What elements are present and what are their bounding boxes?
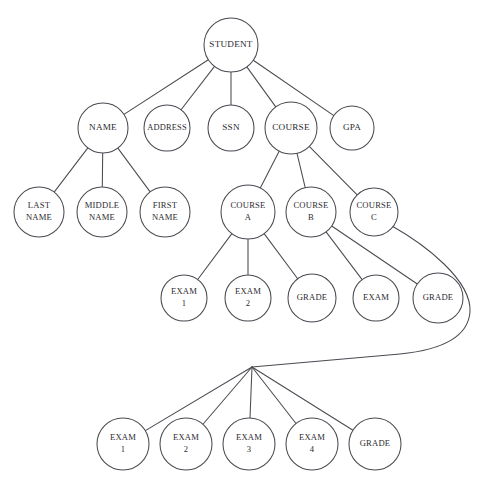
node-label-b-grade: GRADE	[423, 292, 454, 302]
tree-node-first-name[interactable]: FIRSTNAME	[140, 187, 190, 237]
tree-node-gpa[interactable]: GPA	[330, 106, 374, 150]
tree-node-name[interactable]: NAME	[78, 103, 128, 153]
tree-node-a-grade[interactable]: GRADE	[288, 274, 336, 322]
tree-node-a-exam-1[interactable]: EXAM1	[161, 275, 207, 321]
node-label-gpa: GPA	[343, 122, 361, 132]
node-label-b-exam: EXAM	[363, 292, 389, 302]
tree-node-course-c[interactable]: COURSEC	[350, 188, 398, 236]
tree-edge-course-a-grade	[264, 234, 298, 279]
tree-node-middle-name[interactable]: MIDDLENAME	[77, 187, 127, 237]
tree-diagram-canvas: STUDENTNAMEADDRESSSSNCOURSEGPALASTNAMEMI…	[0, 0, 486, 484]
tree-node-last-name[interactable]: LASTNAME	[14, 187, 64, 237]
node-label-c-grade: GRADE	[360, 438, 391, 448]
node-label-course: COURSE	[272, 122, 310, 132]
tree-edge-fan-c-exam-2	[203, 367, 252, 424]
tree-edge-name-last-name	[54, 148, 88, 192]
tree-node-course-b[interactable]: COURSEB	[286, 187, 336, 237]
node-label-first-name: FIRSTNAME	[152, 200, 178, 221]
tree-edge-course-a-exam-1	[198, 234, 232, 280]
tree-node-student[interactable]: STUDENT	[204, 18, 258, 72]
node-label-student: STUDENT	[209, 39, 252, 49]
tree-node-course-a[interactable]: COURSEA	[221, 185, 275, 239]
node-label-middle-name: MIDDLENAME	[85, 200, 120, 221]
tree-node-course[interactable]: COURSE	[265, 102, 317, 154]
tree-node-c-exam-4[interactable]: EXAM4	[286, 418, 338, 470]
tree-node-address[interactable]: ADDRESS	[144, 105, 190, 151]
tree-node-b-exam[interactable]: EXAM	[353, 275, 399, 321]
tree-node-c-exam-3[interactable]: EXAM3	[223, 418, 275, 470]
nodes-layer: STUDENTNAMEADDRESSSSNCOURSEGPALASTNAMEMI…	[14, 18, 463, 470]
tree-edge-name-first-name	[118, 148, 150, 192]
tree-node-a-exam-2[interactable]: EXAM2	[225, 275, 271, 321]
tree-diagram: STUDENTNAMEADDRESSSSNCOURSEGPALASTNAMEMI…	[0, 0, 486, 484]
tree-node-ssn[interactable]: SSN	[208, 105, 254, 151]
node-label-ssn: SSN	[222, 122, 240, 132]
tree-edge-student-address	[181, 66, 214, 109]
tree-edge-course-b-exam	[326, 232, 362, 280]
node-label-a-grade: GRADE	[297, 292, 328, 302]
node-label-address: ADDRESS	[147, 123, 187, 132]
tree-edge-fan-c-exam-4	[252, 367, 296, 423]
tree-node-b-grade[interactable]: GRADE	[413, 273, 463, 323]
node-label-name: NAME	[89, 122, 117, 132]
tree-edge-course-course-b	[297, 153, 305, 187]
tree-node-c-grade[interactable]: GRADE	[349, 418, 401, 470]
tree-node-c-exam-1[interactable]: EXAM1	[97, 418, 149, 470]
tree-edge-fan-c-exam-3	[250, 367, 252, 418]
tree-node-c-exam-2[interactable]: EXAM2	[160, 418, 212, 470]
tree-edge-course-course-a	[260, 151, 279, 188]
node-label-last-name: LASTNAME	[26, 200, 52, 221]
